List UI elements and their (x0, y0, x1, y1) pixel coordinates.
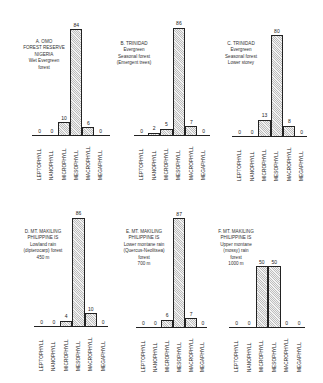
x-tick-label: LEPTOPHYLL (237, 149, 242, 181)
caption-line: (Emergent trees) (94, 60, 174, 66)
x-tick-label: LEPTOPHYLL (234, 340, 239, 372)
bar-value-label: 0 (45, 129, 59, 134)
x-axis-line (136, 327, 207, 328)
bar-value-label: 13 (258, 113, 272, 118)
x-tick-label: NANOPHYLL (153, 342, 158, 372)
x-tick-label: MACROPHYLL (189, 338, 194, 372)
caption-line: 450 m (3, 255, 83, 261)
chart-caption: D. MT. MAKILINGPHILIPPINE ISLowland rain… (3, 229, 83, 261)
x-tick-label: MACROPHYLL (284, 338, 289, 372)
x-axis-line (229, 327, 305, 328)
caption-line: Lower storey (201, 60, 281, 66)
x-tick-label: MEGAPHYLL (297, 342, 302, 372)
bar-value-label: 0 (197, 129, 211, 134)
bar-value-label: 86 (172, 21, 186, 26)
x-tick-label: NANOPHYLL (51, 341, 56, 371)
caption-line: 700 m (104, 261, 184, 267)
bar-value-label: 0 (292, 321, 306, 326)
x-tick-label: MEGAPHYLL (201, 150, 206, 180)
bar-value-label: 7 (184, 120, 198, 125)
bar-macrophyll (283, 126, 295, 136)
chart-caption: C. TRINIDADEvergreenSeasonal forestLower… (201, 41, 281, 67)
x-tick-label: MACROPHYLL (88, 337, 93, 371)
bar-mesophyll (271, 35, 283, 136)
x-tick-label: MESOPHYLL (272, 342, 277, 372)
bar-value-label: 5 (160, 122, 174, 127)
x-tick-label: MICROPHYLL (262, 149, 267, 181)
x-tick-label: NANOPHYLL (247, 342, 252, 372)
bar-microphyll (60, 321, 72, 326)
bar-value-label: 84 (69, 23, 83, 28)
x-axis-line (32, 135, 110, 136)
x-tick-label: MEGAPHYLL (200, 342, 205, 372)
x-tick-label: MEGAPHYLL (101, 341, 106, 371)
bar-mesophyll (173, 28, 185, 136)
x-tick-label: LEPTOPHYLL (141, 340, 146, 372)
bar-microphyll (58, 122, 70, 135)
x-tick-label: MESOPHYLL (74, 150, 79, 180)
bar-value-label: 6 (160, 313, 174, 318)
x-tick-label: MICROPHYLL (165, 340, 170, 372)
x-tick-label: MACROPHYLL (287, 147, 292, 181)
x-tick-label: MICROPHYLL (259, 340, 264, 372)
x-tick-label: MEGAPHYLL (299, 151, 304, 181)
x-tick-label: NANOPHYLL (250, 151, 255, 181)
x-tick-label: LEPTOPHYLL (139, 148, 144, 180)
x-axis-line (134, 135, 210, 136)
x-tick-label: NANOPHYLL (49, 150, 54, 180)
bar-value-label: 86 (72, 211, 86, 216)
x-axis-line (232, 136, 307, 137)
x-tick-label: MICROPHYLL (64, 339, 69, 371)
bar-value-label: 6 (81, 121, 95, 126)
x-tick-label: MICROPHYLL (164, 148, 169, 180)
x-tick-label: LEPTOPHYLL (39, 339, 44, 371)
x-tick-label: MESOPHYLL (177, 342, 182, 372)
chart-caption: E. MT. MAKILINGPHILIPPINE ISLower montan… (104, 229, 184, 267)
bar-mesophyll (70, 29, 82, 135)
x-tick-label: NANOPHYLL (152, 150, 157, 180)
bar-value-label: 80 (270, 29, 284, 34)
bar-macrophyll (85, 313, 97, 326)
x-tick-label: MESOPHYLL (76, 341, 81, 371)
bar-microphyll (160, 129, 172, 135)
bar-value-label: 0 (245, 130, 259, 135)
x-tick-label: MESOPHYLL (274, 151, 279, 181)
x-tick-label: LEPTOPHYLL (37, 148, 42, 180)
bar-mesophyll (72, 218, 84, 326)
bar-value-label: 0 (47, 320, 61, 325)
x-tick-label: MICROPHYLL (62, 148, 67, 180)
bar-mesophyll (268, 266, 281, 327)
bar-microphyll (161, 320, 173, 328)
x-tick-label: MEGAPHYLL (98, 150, 103, 180)
x-tick-label: MACROPHYLL (189, 146, 194, 180)
bar-value-label: 7 (184, 312, 198, 317)
bar-value-label: 0 (196, 321, 210, 326)
chart-caption: B. TRINIDADEvergreenSeasonal forest(Emer… (94, 41, 174, 67)
bar-value-label: 10 (57, 116, 71, 121)
bar-value-label: 0 (94, 129, 108, 134)
x-axis-line (34, 326, 108, 327)
bar-value-label: 4 (59, 314, 73, 319)
bar-value-label: 0 (96, 320, 110, 325)
bar-value-label: 0 (295, 130, 309, 135)
bar-mesophyll (173, 218, 185, 327)
bar-value-label: 8 (282, 119, 296, 124)
bar-value-label: 10 (84, 307, 98, 312)
bar-microphyll (258, 120, 270, 136)
bar-macrophyll (185, 126, 197, 135)
bar-value-label: 87 (172, 212, 186, 217)
bar-value-label: 50 (267, 260, 281, 265)
bar-value-label: 0 (148, 321, 162, 326)
bar-microphyll (256, 266, 269, 327)
bar-value-label: 0 (242, 321, 256, 326)
x-tick-label: MACROPHYLL (86, 146, 91, 180)
bar-nanophyll (148, 133, 160, 136)
x-tick-label: MESOPHYLL (176, 150, 181, 180)
